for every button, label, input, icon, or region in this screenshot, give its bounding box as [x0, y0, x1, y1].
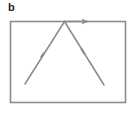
ray-diagram	[0, 0, 136, 115]
medium-box	[11, 22, 126, 103]
reflected-ray	[65, 22, 105, 86]
figure-panel-b: b	[0, 0, 136, 115]
incident-ray	[25, 22, 65, 85]
